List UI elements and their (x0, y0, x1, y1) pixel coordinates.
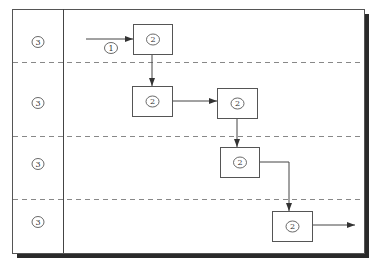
svg-text:3: 3 (35, 218, 40, 227)
entry-label: 1 (105, 43, 118, 54)
svg-text:2: 2 (150, 35, 155, 44)
svg-text:2: 2 (235, 99, 240, 108)
svg-text:3: 3 (35, 160, 40, 169)
lane-label-1: 3 (32, 37, 44, 48)
process-box-5: 2 (273, 212, 313, 242)
svg-text:2: 2 (237, 158, 242, 167)
swimlane-diagram: 3333222221 (0, 0, 380, 267)
lane-label-2: 3 (32, 98, 44, 109)
process-box-1: 2 (134, 25, 173, 55)
lane-label-4: 3 (32, 217, 44, 228)
process-box-4: 2 (221, 148, 260, 178)
svg-text:2: 2 (150, 97, 155, 106)
svg-text:3: 3 (35, 99, 40, 108)
process-box-3: 2 (218, 89, 258, 119)
svg-text:2: 2 (290, 222, 295, 231)
lane-label-3: 3 (32, 159, 44, 170)
svg-text:3: 3 (35, 38, 40, 47)
svg-text:1: 1 (108, 44, 113, 53)
process-box-2: 2 (133, 87, 173, 117)
